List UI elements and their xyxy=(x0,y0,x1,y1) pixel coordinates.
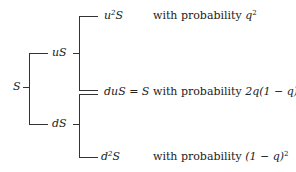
prob-up-down: with probability 2q(1 − q) xyxy=(153,86,296,98)
node-up-up: u2S xyxy=(104,10,123,22)
prob-down-down: with probability (1 − q)2 xyxy=(153,151,289,163)
node-up: uS xyxy=(52,47,67,59)
bracket-down-vertical xyxy=(79,94,80,158)
bracket-1-vertical xyxy=(29,53,30,125)
bracket-up-vertical xyxy=(79,16,80,91)
bracket-up-bottom xyxy=(79,90,98,91)
node-root: S xyxy=(13,81,21,93)
node-down-down: d2S xyxy=(101,151,120,163)
bracket-up-top xyxy=(79,16,98,17)
node-down: dS xyxy=(52,118,67,130)
prob-up-up: with probability q2 xyxy=(153,10,257,22)
bracket-down-top xyxy=(79,94,98,95)
bracket-1-top xyxy=(29,53,48,54)
bracket-1-bottom xyxy=(29,124,48,125)
node-up-down: duS = S xyxy=(104,86,149,98)
bracket-down-bottom xyxy=(79,157,98,158)
